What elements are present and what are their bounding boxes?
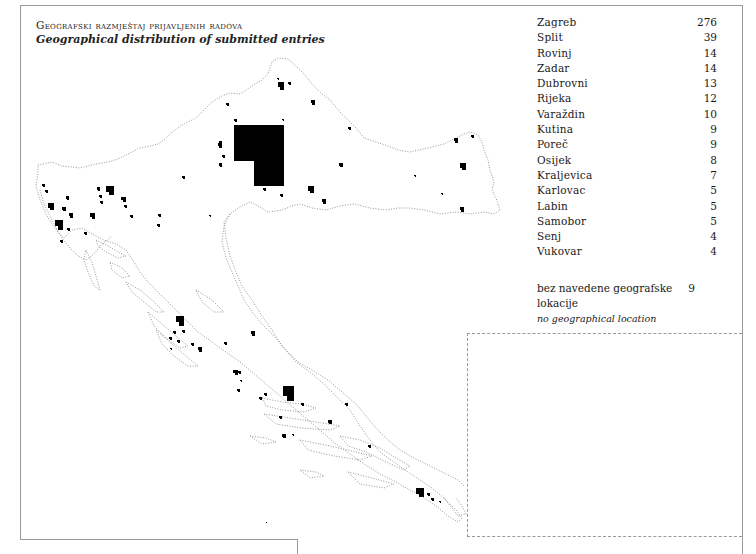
marker xyxy=(62,207,66,211)
legend-city-count: 8 xyxy=(710,153,717,168)
marker xyxy=(60,240,63,243)
marker xyxy=(282,119,284,121)
legend-city-name: Split xyxy=(537,30,563,45)
marker xyxy=(45,190,48,193)
legend-city-name: Poreč xyxy=(537,137,568,152)
legend-city-count: 12 xyxy=(704,91,717,106)
marker-pore xyxy=(48,203,54,210)
outline-island-pag2 xyxy=(196,290,224,312)
legend-row: Rijeka12 xyxy=(537,91,717,106)
outline-island-korcula xyxy=(300,440,372,460)
legend-row: Kraljevica7 xyxy=(537,168,717,183)
legend-row: Labin5 xyxy=(537,199,717,214)
marker-kutina xyxy=(308,186,314,193)
marker-zadar xyxy=(176,316,184,326)
marker xyxy=(288,82,291,85)
marker xyxy=(67,228,70,231)
marker-dubrovnik xyxy=(416,488,424,497)
legend-city-count: 9 xyxy=(710,137,717,152)
marker xyxy=(226,103,229,106)
marker xyxy=(345,403,348,406)
marker xyxy=(277,78,279,80)
marker xyxy=(237,389,240,392)
marker xyxy=(158,214,161,217)
legend-city-name: Zagreb xyxy=(537,15,576,30)
legend-row: Samobor5 xyxy=(537,214,717,229)
marker xyxy=(219,163,222,167)
marker xyxy=(292,434,294,436)
marker xyxy=(282,434,286,438)
marker xyxy=(328,420,332,424)
outline-island-cres xyxy=(84,250,100,290)
marker-karlovac xyxy=(90,213,95,219)
legend-city-count: 39 xyxy=(704,30,717,45)
marker xyxy=(368,445,371,448)
outline-istria xyxy=(40,190,112,260)
legend-city-name: Rijeka xyxy=(537,91,572,106)
marker xyxy=(427,493,430,496)
legend-city-name: Labin xyxy=(537,199,568,214)
outline-island-rab xyxy=(110,262,130,278)
marker xyxy=(66,196,69,200)
no-location-count: 9 xyxy=(688,281,717,311)
marker xyxy=(251,331,255,336)
entry-markers xyxy=(42,78,474,523)
marker xyxy=(439,501,441,503)
outline-island-krk xyxy=(96,240,126,258)
city-legend: Zagreb276Split39Rovinj14Zadar14Dubrovni1… xyxy=(537,15,717,260)
marker xyxy=(209,215,211,217)
legend-city-name: Zadar xyxy=(537,61,570,76)
marker-split xyxy=(283,386,294,401)
marker xyxy=(280,194,283,197)
marker-varadin xyxy=(278,82,284,90)
marker xyxy=(177,340,180,343)
legend-city-count: 5 xyxy=(710,214,717,229)
legend-row: Senj4 xyxy=(537,229,717,244)
legend-city-name: Osijek xyxy=(537,153,571,168)
marker-zagreb xyxy=(234,125,284,186)
marker xyxy=(339,163,343,167)
marker xyxy=(471,135,474,138)
outline-island-mljet xyxy=(348,472,394,488)
marker xyxy=(169,337,172,340)
no-location-label-en: no geographical location xyxy=(537,311,717,326)
marker xyxy=(191,343,194,346)
marker xyxy=(182,330,185,333)
marker xyxy=(441,193,443,195)
marker xyxy=(224,342,227,345)
marker-vukovar xyxy=(460,207,464,212)
marker-rijeka xyxy=(106,186,114,195)
legend-city-name: Varaždin xyxy=(537,107,585,122)
outline-island-kornati xyxy=(156,330,198,366)
legend-city-count: 5 xyxy=(710,199,717,214)
legend-city-count: 276 xyxy=(697,15,717,30)
legend-city-count: 7 xyxy=(710,168,717,183)
marker xyxy=(42,184,45,187)
legend-city-count: 13 xyxy=(704,76,717,91)
marker xyxy=(198,347,202,352)
marker xyxy=(431,498,434,501)
legend-city-count: 10 xyxy=(704,107,717,122)
marker xyxy=(265,522,267,523)
no-location-legend: bez navedene geografske lokacije 9 no ge… xyxy=(537,281,717,326)
marker-kraljevica xyxy=(121,197,126,202)
marker xyxy=(264,393,267,396)
marker xyxy=(311,100,315,105)
legend-city-name: Rovinj xyxy=(537,46,572,61)
marker xyxy=(322,199,326,204)
marker xyxy=(97,187,100,191)
legend-row: Vukovar4 xyxy=(537,244,717,259)
legend-city-count: 14 xyxy=(704,61,717,76)
legend-row: Rovinj14 xyxy=(537,46,717,61)
legend-row: Poreč9 xyxy=(537,137,717,152)
marker xyxy=(99,195,102,198)
outline-island-pag xyxy=(126,282,164,312)
marker xyxy=(263,188,266,191)
legend-city-count: 5 xyxy=(710,183,717,198)
legend-city-name: Karlovac xyxy=(537,183,585,198)
legend-row: Kutina9 xyxy=(537,122,717,137)
marker xyxy=(124,205,127,208)
marker xyxy=(414,175,416,177)
legend-city-count: 4 xyxy=(710,244,717,259)
legend-row: Zadar14 xyxy=(537,61,717,76)
